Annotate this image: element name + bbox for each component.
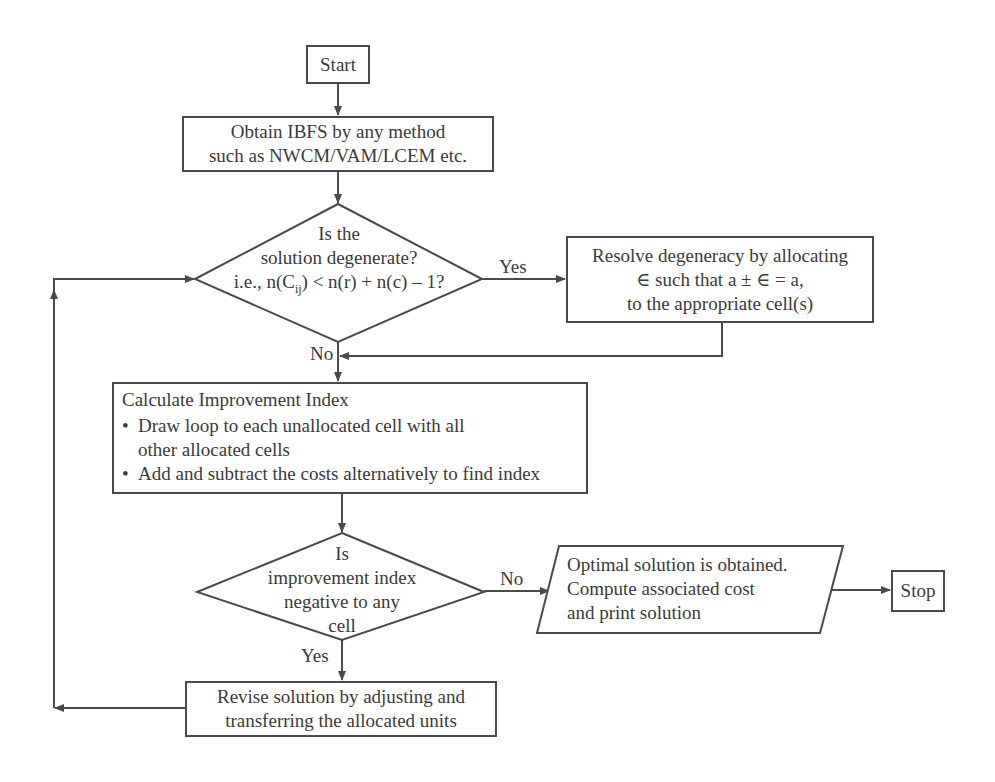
resolve-line3: to the appropriate cell(s) bbox=[627, 292, 813, 316]
revise-solution-process: Revise solution by adjusting and transfe… bbox=[185, 681, 497, 737]
bullet-icon: • bbox=[122, 414, 138, 462]
degenerate-line3-sub: ij bbox=[295, 282, 302, 296]
stop-terminal: Stop bbox=[891, 570, 945, 612]
degenerate-line1: Is the bbox=[200, 222, 478, 246]
degenerate-line3-prefix: i.e., n(C bbox=[234, 271, 295, 292]
start-label: Start bbox=[320, 53, 356, 77]
obtain-ibfs-line1: Obtain IBFS by any method bbox=[231, 120, 445, 144]
improvement-line1: Is bbox=[230, 542, 454, 566]
degenerate-line3-suffix: ) < n(r) + n(c) – 1? bbox=[302, 271, 445, 292]
optimal-line1: Optimal solution is obtained. bbox=[567, 553, 827, 577]
improvement-no-label: No bbox=[500, 568, 523, 590]
stop-label: Stop bbox=[901, 579, 936, 603]
calculate-index-process: Calculate Improvement Index • Draw loop … bbox=[112, 382, 588, 494]
bullet-1-line1: Draw loop to each unallocated cell with … bbox=[138, 415, 465, 436]
bullet-1-line2: other allocated cells bbox=[138, 439, 290, 460]
improvement-line3: negative to any bbox=[230, 590, 454, 614]
start-terminal: Start bbox=[306, 45, 370, 84]
obtain-ibfs-process: Obtain IBFS by any method such as NWCM/V… bbox=[182, 116, 494, 172]
degenerate-line2: solution degenerate? bbox=[200, 246, 478, 270]
obtain-ibfs-line2: such as NWCM/VAM/LCEM etc. bbox=[209, 144, 467, 168]
degenerate-yes-label: Yes bbox=[499, 256, 527, 278]
calculate-index-bullet-2: • Add and subtract the costs alternative… bbox=[122, 462, 578, 486]
degenerate-no-label: No bbox=[310, 343, 333, 365]
revise-line1: Revise solution by adjusting and bbox=[217, 685, 465, 709]
improvement-line4: cell bbox=[230, 614, 454, 638]
optimal-line3: and print solution bbox=[567, 601, 827, 625]
bullet-2-line1: Add and subtract the costs alternatively… bbox=[138, 462, 540, 486]
improvement-yes-label: Yes bbox=[301, 645, 329, 667]
resolve-degeneracy-process: Resolve degeneracy by allocating ∈ such … bbox=[566, 236, 874, 323]
improvement-decision: Is improvement index negative to any cel… bbox=[230, 542, 454, 638]
improvement-line2: improvement index bbox=[230, 566, 454, 590]
bullet-icon: • bbox=[122, 462, 138, 486]
degenerate-decision: Is the solution degenerate? i.e., n(Cij)… bbox=[200, 222, 478, 294]
optimal-line2: Compute associated cost bbox=[567, 577, 827, 601]
resolve-line1: Resolve degeneracy by allocating bbox=[592, 244, 848, 268]
flowchart-canvas: Start Obtain IBFS by any method such as … bbox=[0, 0, 995, 782]
bullet-1-text: Draw loop to each unallocated cell with … bbox=[138, 414, 465, 462]
revise-line2: transferring the allocated units bbox=[225, 709, 457, 733]
resolve-line2: ∈ such that a ± ∈ = a, bbox=[636, 268, 803, 292]
calculate-index-title: Calculate Improvement Index bbox=[122, 388, 578, 412]
optimal-output: Optimal solution is obtained. Compute as… bbox=[567, 553, 827, 625]
calculate-index-bullet-1: • Draw loop to each unallocated cell wit… bbox=[122, 414, 578, 462]
degenerate-line3: i.e., n(Cij) < n(r) + n(c) – 1? bbox=[200, 270, 478, 294]
